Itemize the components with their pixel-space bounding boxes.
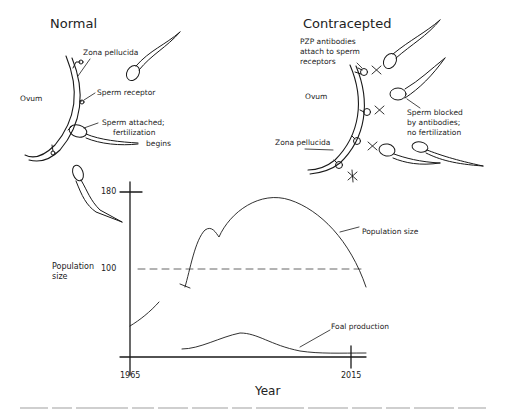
sperm-attached-label-1: Sperm attached; [102,118,165,128]
pzp-label-1: PZP antibodies [300,37,356,47]
population-size-curve [130,198,366,326]
y-tick-180: 180 [101,187,116,196]
contracepted-panel-title: Contracepted [303,16,391,31]
pzp-antibody-blocked-receptors [334,68,371,169]
diagram-canvas [0,0,505,412]
contracepted-leader-lines [305,63,420,150]
sperm-attached-label-3: begins [146,139,171,149]
contracepted-zona-pellucida-label: Zona pellucida [275,138,330,148]
blocked-label-3: no fertilization [407,128,461,138]
contracepted-ovum-membrane [308,65,364,174]
blocked-label-1: Sperm blocked [407,108,463,118]
chart-axes [120,182,366,375]
normal-panel-title: Normal [50,16,97,31]
foal-production-annotation: Foal production [331,322,389,332]
contracepted-ovum-label: Ovum [305,92,327,102]
sperm-receptor-label: Sperm receptor [97,88,155,98]
normal-leader-lines [78,59,98,128]
population-size-annotation: Population size [362,227,418,237]
blocked-label-2: by antibodies; [407,118,460,128]
contracepted-sperm-3 [378,143,440,164]
contracepted-sperm-2 [390,58,445,100]
normal-ovum-label: Ovum [20,94,42,104]
sperm-attached-label-2: fertilization [113,128,155,138]
foal-production-curve [182,333,366,353]
block-x-marks [348,66,384,182]
pzp-label-3: receptors [300,57,336,67]
pzp-label-2: attach to sperm [300,47,360,57]
x-tick-1965: 1965 [120,371,140,380]
y-tick-100: 100 [101,264,116,273]
contracepted-sperm-4 [411,141,483,166]
normal-ovum-membrane [25,56,80,161]
x-tick-2015: 2015 [341,371,361,380]
y-axis-title: Population size [52,262,98,282]
x-axis-title: Year [255,384,280,398]
clipped-caption-line [20,407,490,412]
normal-zona-pellucida-label: Zona pellucida [83,48,138,58]
